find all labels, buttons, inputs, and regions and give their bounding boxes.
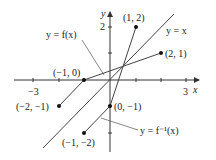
point-neg2-neg1 — [57, 104, 61, 108]
point-0-neg1 — [108, 104, 112, 108]
y-tick-label-2: 2 — [100, 21, 105, 32]
point-label-0-neg1: (0, −1) — [114, 101, 141, 113]
y-axis-label: y — [100, 8, 106, 19]
point-label-neg1-0: (−1, 0) — [53, 67, 80, 79]
function-inverse-diagram: −3 3 x 2 y y = x y = f(x) y = f⁻¹(x) (1,… — [0, 0, 216, 160]
point-1-2 — [134, 25, 138, 29]
point-label-neg1-neg2: (−1, −2) — [62, 137, 95, 149]
identity-label: y = x — [166, 25, 187, 36]
point-2-1 — [159, 51, 163, 55]
f-label: y = f(x) — [46, 29, 77, 41]
point-neg1-neg2 — [82, 131, 86, 135]
f-label-pointer — [82, 40, 104, 75]
point-label-neg2-neg1: (−2, −1) — [16, 101, 49, 113]
point-label-2-1: (2, 1) — [165, 48, 187, 60]
point-label-1-2: (1, 2) — [123, 12, 145, 24]
x-tick-label-neg3: −3 — [28, 86, 39, 97]
x-axis-label: x — [192, 84, 198, 95]
f-inverse-label: y = f⁻¹(x) — [140, 125, 179, 137]
point-neg1-0 — [82, 78, 86, 82]
x-tick-label-3: 3 — [183, 86, 188, 97]
f-inverse-label-pointer — [101, 118, 138, 130]
